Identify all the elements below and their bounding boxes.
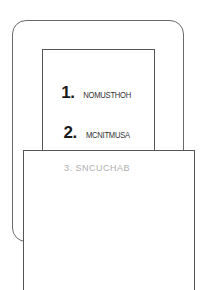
item-number: 2. [63, 123, 76, 142]
item-number: 1. [61, 83, 74, 102]
item-text: SNCUCHAB [76, 163, 131, 173]
item-text: MCNITMUSA [86, 130, 130, 140]
item-number: 3. [64, 163, 73, 173]
document-page: 1. NOMUSTHOH 2. MCNITMUSA [42, 49, 155, 159]
item-text: NOMUSTHOH [84, 90, 132, 100]
list-item: 1. NOMUSTHOH [43, 83, 154, 103]
faded-list-item: 3. SNCUCHAB [64, 163, 130, 173]
list-item: 2. MCNITMUSA [43, 123, 154, 143]
front-panel: 3. SNCUCHAB [23, 150, 195, 290]
